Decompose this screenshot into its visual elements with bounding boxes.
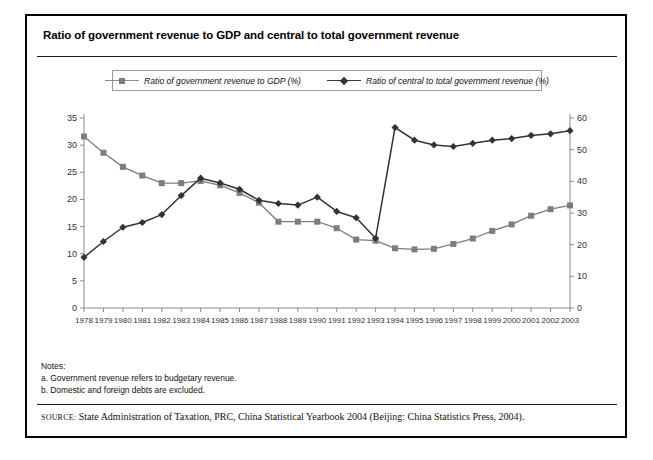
svg-text:1980: 1980 bbox=[114, 316, 133, 325]
line-chart-svg: 0510152025303501020304050601978197919801… bbox=[37, 100, 617, 350]
notes-heading: Notes: bbox=[41, 361, 601, 373]
svg-text:1992: 1992 bbox=[347, 316, 366, 325]
svg-text:1993: 1993 bbox=[367, 316, 386, 325]
legend-label-gdp-ratio: Ratio of government revenue to GDP (%) bbox=[144, 76, 301, 86]
svg-text:1983: 1983 bbox=[172, 316, 191, 325]
svg-text:1989: 1989 bbox=[289, 316, 308, 325]
svg-text:0: 0 bbox=[72, 303, 77, 313]
chart-legend: Ratio of government revenue to GDP (%) R… bbox=[112, 70, 542, 91]
svg-text:1985: 1985 bbox=[211, 316, 230, 325]
svg-text:1986: 1986 bbox=[231, 316, 250, 325]
svg-text:50: 50 bbox=[577, 145, 587, 155]
legend-square-marker-icon bbox=[105, 76, 139, 86]
figure-source: SOURCE: State Administration of Taxation… bbox=[41, 411, 616, 422]
svg-text:20: 20 bbox=[67, 194, 77, 204]
svg-text:30: 30 bbox=[67, 140, 77, 150]
svg-text:1982: 1982 bbox=[153, 316, 172, 325]
note-b: b. Domestic and foreign debts are exclud… bbox=[41, 385, 601, 397]
svg-text:25: 25 bbox=[67, 167, 77, 177]
figure-frame: Ratio of government revenue to GDP and c… bbox=[25, 14, 627, 438]
svg-text:1994: 1994 bbox=[386, 316, 405, 325]
source-text: State Administration of Taxation, PRC, C… bbox=[79, 411, 525, 422]
svg-text:2002: 2002 bbox=[542, 316, 561, 325]
svg-text:20: 20 bbox=[577, 240, 587, 250]
svg-text:60: 60 bbox=[577, 113, 587, 123]
legend-item-gdp-ratio: Ratio of government revenue to GDP (%) bbox=[105, 76, 301, 86]
svg-text:1991: 1991 bbox=[328, 316, 347, 325]
svg-text:15: 15 bbox=[67, 222, 77, 232]
svg-text:1981: 1981 bbox=[133, 316, 152, 325]
legend-label-central-ratio: Ratio of central to total government rev… bbox=[366, 76, 549, 86]
source-divider bbox=[37, 404, 617, 405]
svg-text:1978: 1978 bbox=[75, 316, 94, 325]
legend-diamond-marker-icon bbox=[327, 76, 361, 86]
svg-text:30: 30 bbox=[577, 208, 587, 218]
figure-title: Ratio of government revenue to GDP and c… bbox=[43, 29, 603, 41]
svg-text:2000: 2000 bbox=[503, 316, 522, 325]
svg-text:10: 10 bbox=[577, 271, 587, 281]
figure-page: Ratio of government revenue to GDP and c… bbox=[0, 0, 653, 460]
source-label: SOURCE: bbox=[41, 413, 76, 422]
figure-notes: Notes: a. Government revenue refers to b… bbox=[41, 361, 601, 397]
svg-text:10: 10 bbox=[67, 249, 77, 259]
chart-plot-area: 0510152025303501020304050601978197919801… bbox=[37, 100, 617, 350]
svg-text:2001: 2001 bbox=[522, 316, 541, 325]
legend-item-central-ratio: Ratio of central to total government rev… bbox=[327, 76, 549, 86]
svg-text:40: 40 bbox=[577, 176, 587, 186]
svg-text:1987: 1987 bbox=[250, 316, 269, 325]
svg-text:1998: 1998 bbox=[464, 316, 483, 325]
svg-text:5: 5 bbox=[72, 276, 77, 286]
title-divider bbox=[37, 56, 617, 57]
svg-text:35: 35 bbox=[67, 113, 77, 123]
svg-text:1999: 1999 bbox=[483, 316, 502, 325]
svg-text:2003: 2003 bbox=[561, 316, 580, 325]
svg-text:1997: 1997 bbox=[444, 316, 463, 325]
svg-text:0: 0 bbox=[577, 303, 582, 313]
svg-text:1990: 1990 bbox=[308, 316, 327, 325]
note-a: a. Government revenue refers to budgetar… bbox=[41, 373, 601, 385]
svg-text:1979: 1979 bbox=[94, 316, 113, 325]
svg-text:1995: 1995 bbox=[405, 316, 424, 325]
svg-text:1988: 1988 bbox=[269, 316, 288, 325]
svg-text:1996: 1996 bbox=[425, 316, 444, 325]
svg-text:1984: 1984 bbox=[192, 316, 211, 325]
